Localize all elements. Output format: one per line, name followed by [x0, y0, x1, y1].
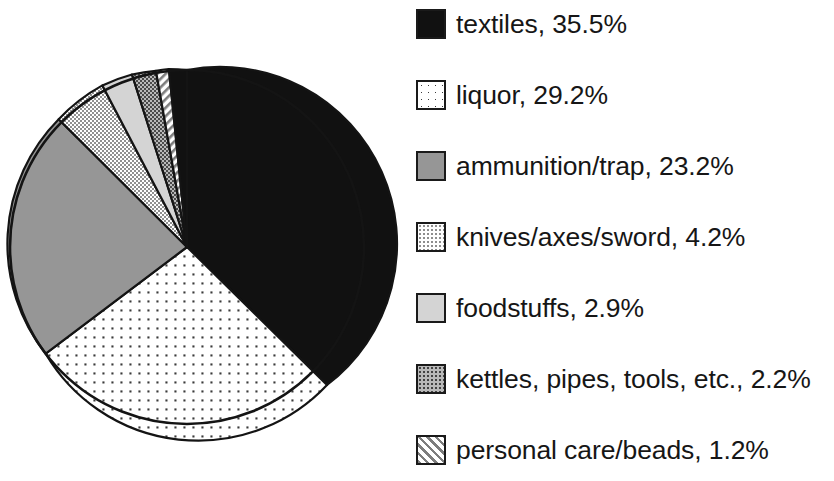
legend: textiles, 35.5% liquor, 29.2% ammunition…	[416, 0, 834, 481]
legend-item-knives-axes-sword[interactable]: knives/axes/sword, 4.2%	[416, 219, 745, 255]
legend-item-ammunition-trap[interactable]: ammunition/trap, 23.2%	[416, 148, 734, 184]
solid-gray-swatch-icon	[416, 151, 446, 181]
legend-item-label: ammunition/trap, 23.2%	[456, 151, 734, 181]
legend-item-label: kettles, pipes, tools, etc., 2.2%	[456, 364, 811, 394]
light-gray-swatch-icon	[416, 293, 446, 323]
fine-checker-swatch-icon	[416, 222, 446, 252]
legend-item-label: liquor, 29.2%	[456, 80, 608, 110]
legend-item-label: personal care/beads, 1.2%	[456, 435, 769, 465]
legend-item-foodstuffs[interactable]: foodstuffs, 2.9%	[416, 290, 644, 326]
sparse-dots-swatch-icon	[416, 80, 446, 110]
dark-checker-swatch-icon	[416, 364, 446, 394]
legend-item-label: foodstuffs, 2.9%	[456, 293, 644, 323]
legend-item-kettles-pipes-tools[interactable]: kettles, pipes, tools, etc., 2.2%	[416, 361, 811, 397]
legend-item-personal-care-beads[interactable]: personal care/beads, 1.2%	[416, 432, 769, 468]
legend-item-label: textiles, 35.5%	[456, 9, 627, 39]
pie-chart-figure: textiles, 35.5% liquor, 29.2% ammunition…	[0, 0, 834, 481]
diagonal-hatch-swatch-icon	[416, 435, 446, 465]
pie-chart-svg	[0, 0, 400, 481]
pie-chart-plot-area	[0, 0, 400, 481]
legend-item-textiles[interactable]: textiles, 35.5%	[416, 6, 627, 42]
solid-black-swatch-icon	[416, 9, 446, 39]
legend-item-label: knives/axes/sword, 4.2%	[456, 222, 745, 252]
legend-item-liquor[interactable]: liquor, 29.2%	[416, 77, 608, 113]
